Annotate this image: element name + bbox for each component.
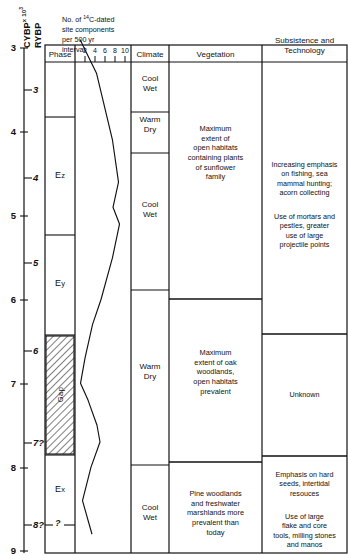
axis-title-rybp: RYBP <box>33 23 43 48</box>
axis-title-cybp: CYBPx 103 <box>18 7 32 48</box>
phase-label-ex: Ex <box>45 484 75 494</box>
subsistence-cell-3: Unknown <box>262 390 347 399</box>
subsistence-cell-1: Increasing emphasis on fishing, sea mamm… <box>262 160 347 197</box>
climate-cell-1: CoolWet <box>131 74 169 95</box>
climate-cell-5: CoolWet <box>131 503 169 524</box>
phase-label-ey: Ey <box>45 278 75 288</box>
phase-label-ez: Ez <box>45 170 75 180</box>
phase-label-gap: Gap <box>56 381 65 409</box>
tick-cybp-4: 4 <box>2 126 16 137</box>
rybp-tick-marks <box>24 90 32 525</box>
tick-cybp-5: 5 <box>2 210 16 221</box>
c14-scale-10: 10 <box>119 47 131 54</box>
vegetation-cell-2: Maximum extent of oak woodlands, open ha… <box>169 348 262 396</box>
tick-rybp-5: 5 <box>33 257 53 268</box>
vegetation-cell-3: Pine woodlands and freshwater marshlands… <box>169 489 262 537</box>
tick-cybp-7: 7 <box>2 378 16 389</box>
climate-cell-4: WarmDry <box>131 362 169 383</box>
tick-cybp-6: 6 <box>2 294 16 305</box>
tick-cybp-8: 8 <box>2 462 16 473</box>
column-header-vegetation: Vegetation <box>169 50 262 60</box>
subsistence-cell-5: Use of large flake and core tools, milli… <box>262 512 347 549</box>
climate-cell-2: WarmDry <box>131 115 169 136</box>
climate-boundaries <box>131 112 169 465</box>
column-header-climate: Climate <box>131 50 169 60</box>
subsistence-cell-2: Use of mortars and pestles, greater use … <box>262 212 347 249</box>
climate-cell-3: CoolWet <box>131 200 169 221</box>
tick-cybp-3: 3 <box>2 42 16 53</box>
tick-rybp-7: 7? <box>33 437 53 448</box>
tick-rybp-8: 8? <box>33 519 53 530</box>
tick-rybp-6: 6 <box>33 345 53 356</box>
tick-cybp-9: 9 <box>2 545 16 555</box>
vegetation-cell-1: Maximum extent of open habitats containi… <box>169 124 262 182</box>
tick-rybp-3: 3 <box>33 84 53 95</box>
subsistence-cell-4: Emphasis on hard seeds, intertidal resou… <box>262 470 347 498</box>
c14-frequency-polyline <box>80 40 120 535</box>
column-header-subsistence: Subsistence and Technology <box>262 36 347 56</box>
phase-query-label: ? <box>55 518 61 528</box>
